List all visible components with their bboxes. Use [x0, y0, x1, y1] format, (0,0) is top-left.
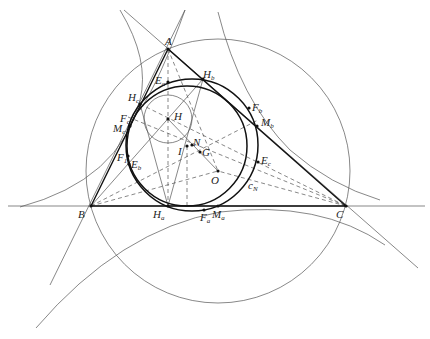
label-n: N	[192, 136, 201, 148]
label-ha: Ha	[152, 208, 165, 222]
curve-left-upper	[20, 10, 143, 207]
label-mc: Mc	[112, 122, 126, 136]
label-cn: cN	[248, 179, 258, 193]
label-hc: Hc	[127, 91, 140, 105]
label-hb: Hb	[202, 68, 215, 82]
label-ea: Ea	[154, 74, 166, 88]
geometry-diagram: A B C H O I N G Ha Hb Hc Ea Eb Ec Fa Fb …	[0, 0, 430, 339]
curve-bottom	[36, 209, 385, 328]
label-g: G	[202, 146, 210, 158]
curve-right-upper	[218, 12, 380, 200]
ob-segment	[91, 171, 218, 206]
label-ec: Ec	[260, 154, 272, 168]
diagram-canvas: A B C H O I N G Ha Hb Hc Ea Eb Ec Fa Fb …	[0, 0, 430, 339]
label-mb: Mb	[260, 116, 274, 130]
label-o: O	[211, 174, 219, 186]
altitude-c	[140, 104, 346, 206]
label-f1: F1	[116, 151, 127, 165]
label-fa: Fa	[199, 211, 211, 225]
labels: A B C H O I N G Ha Hb Hc Ea Eb Ec Fa Fb …	[78, 35, 344, 225]
label-c: C	[336, 208, 344, 220]
label-fb: Fb	[251, 101, 263, 115]
label-b: B	[78, 208, 85, 220]
label-ma: Ma	[211, 208, 225, 222]
thin-curves	[8, 10, 425, 328]
label-eb: Eb	[130, 158, 142, 172]
label-a: A	[164, 35, 172, 47]
line-ab-extended	[50, 10, 185, 285]
label-h: H	[173, 110, 183, 122]
